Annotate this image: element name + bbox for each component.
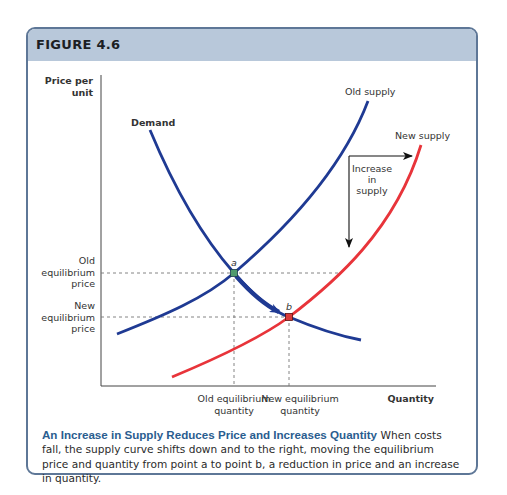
shift-label-3: supply	[356, 185, 388, 196]
movement-arrow	[236, 276, 279, 312]
new-supply-label: New supply	[395, 130, 450, 141]
old-supply-label: Old supply	[345, 86, 396, 97]
old-price-label-3: price	[71, 278, 95, 289]
point-b-marker	[286, 314, 293, 321]
old-supply-curve	[117, 101, 368, 334]
new-price-label-1: New	[74, 300, 95, 311]
new-supply-curve	[172, 145, 421, 377]
figure-caption: An Increase in Supply Reduces Price and …	[42, 428, 462, 485]
old-price-label-1: Old	[79, 255, 95, 266]
y-axis-label-1: Price per	[45, 75, 94, 86]
y-axis-label-2: unit	[72, 87, 94, 98]
x-axis-label: Quantity	[387, 393, 434, 404]
old-qty-label-1: Old equilibrium	[198, 393, 271, 404]
caption-title: An Increase in Supply Reduces Price and …	[42, 428, 377, 441]
shift-label-2: in	[368, 174, 377, 185]
old-qty-label-2: quantity	[214, 405, 254, 416]
point-a-marker	[231, 270, 238, 277]
shift-label-1: Increase	[352, 163, 392, 174]
old-price-label-2: equilibrium	[41, 267, 95, 278]
supply-demand-chart: Price per unit Demand Old supply New sup…	[0, 0, 507, 495]
new-qty-label-2: quantity	[280, 405, 320, 416]
new-qty-label-1: New equilibrium	[261, 393, 338, 404]
demand-curve	[150, 130, 361, 340]
demand-label: Demand	[131, 117, 175, 128]
point-a-label: a	[231, 257, 237, 268]
point-b-label: b	[286, 301, 292, 312]
new-price-label-2: equilibrium	[41, 312, 95, 323]
new-price-label-3: price	[71, 323, 95, 334]
